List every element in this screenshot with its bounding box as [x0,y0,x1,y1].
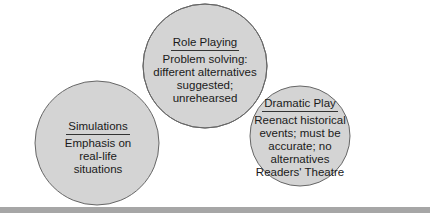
simulations-label: Simulations Emphasis on real-life situat… [60,120,136,176]
simulations-description: Emphasis on real-life situations [60,137,136,176]
role-playing-description: Problem solving: different alternatives … [150,53,260,105]
dramatic-play-description: Reenact historical events; must be accur… [252,114,348,179]
dramatic-play-title: Dramatic Play [262,97,338,112]
role-playing-title: Role Playing [171,36,240,51]
role-playing-label: Role Playing Problem solving: different … [150,36,260,105]
simulations-title: Simulations [66,120,129,135]
venn-diagram [0,0,446,218]
dramatic-play-label: Dramatic Play Reenact historical events;… [252,97,348,179]
bottom-rule [0,207,430,213]
